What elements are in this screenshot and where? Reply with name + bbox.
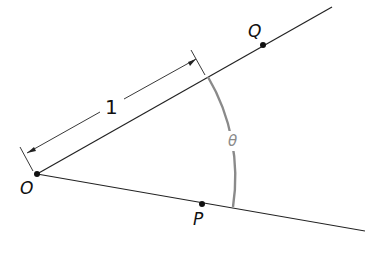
label-o: O [20,178,33,198]
angle-label-theta: θ [228,132,237,150]
label-p: P [193,209,204,229]
dimension-segment-right [124,59,196,99]
point-p [199,201,205,207]
point-q [260,42,266,48]
dimension-segment-left [27,112,100,153]
dimension-arrow-start-icon [27,147,36,153]
length-label: 1 [105,95,118,119]
ray-oq [37,7,332,174]
diagram-canvas: O P Q 1 θ [0,0,365,255]
dimension-tick-end [191,50,205,75]
point-o [34,171,40,177]
label-q: Q [248,21,261,41]
dimension-arrow-end-icon [188,59,196,66]
